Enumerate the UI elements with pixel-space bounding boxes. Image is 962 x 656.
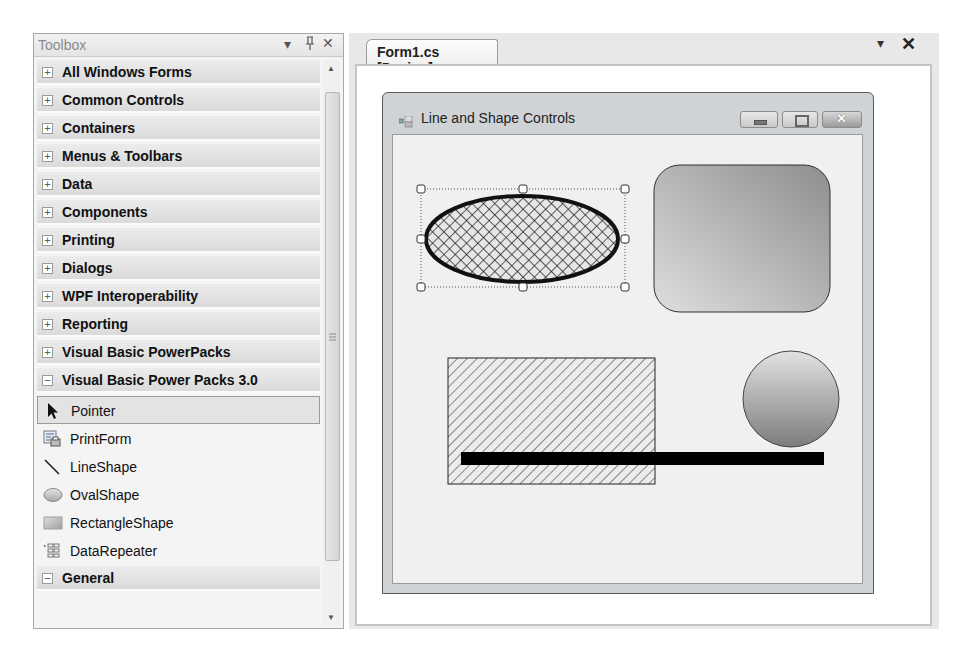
expand-icon[interactable]: + [42,207,53,218]
category-components[interactable]: +Components [37,200,320,225]
line-shape[interactable] [461,452,824,465]
oval-icon [43,486,61,504]
category-label: General [62,570,114,586]
expand-icon[interactable]: + [42,123,53,134]
category-data[interactable]: +Data [37,172,320,197]
category-menus-toolbars[interactable]: +Menus & Toolbars [37,144,320,169]
expand-icon[interactable]: + [42,347,53,358]
form-title: Line and Shape Controls [421,110,575,126]
expand-icon[interactable]: + [42,235,53,246]
form-maximize-button[interactable] [782,111,818,128]
document-close-icon[interactable]: ✕ [901,33,916,55]
rounded-rectangle-shape[interactable] [654,165,830,312]
scroll-down-icon[interactable]: ▼ [327,613,335,622]
expand-icon[interactable]: + [42,291,53,302]
toolbox-item-rectangleshape[interactable]: RectangleShape [37,509,320,537]
category-visual-basic-powerpacks[interactable]: +Visual Basic PowerPacks [37,340,320,365]
rectangle-shape-hatched[interactable] [448,358,655,484]
collapse-icon[interactable]: − [42,573,53,584]
category-label: Menus & Toolbars [62,148,182,164]
form-client-area[interactable] [392,134,863,584]
item-label: RectangleShape [70,515,174,531]
item-label: LineShape [70,459,137,475]
category-label: Components [62,204,148,220]
category-printing[interactable]: +Printing [37,228,320,253]
tab-form1-design[interactable]: Form1.cs [Design] [366,39,498,66]
category-dialogs[interactable]: +Dialogs [37,256,320,281]
category-label: Data [62,176,92,192]
item-label: DataRepeater [70,543,157,559]
toolbox-list: +All Windows Forms +Common Controls +Con… [37,60,320,626]
category-label: Reporting [62,316,128,332]
category-containers[interactable]: +Containers [37,116,320,141]
expand-icon[interactable]: + [42,263,53,274]
category-label: All Windows Forms [62,64,192,80]
toolbox-item-ovalshape[interactable]: OvalShape [37,481,320,509]
category-all-windows-forms[interactable]: +All Windows Forms [37,60,320,85]
form-minimize-button[interactable] [740,111,778,128]
close-icon: ✕ [836,111,847,126]
category-label: Visual Basic Power Packs 3.0 [62,372,258,388]
category-label: Containers [62,120,135,136]
toolbox-item-pointer[interactable]: Pointer [37,396,320,424]
item-label: PrintForm [70,431,131,447]
category-label: Common Controls [62,92,184,108]
expand-icon[interactable]: + [42,95,53,106]
toolbox-item-printform[interactable]: PrintForm [37,425,320,453]
form-close-button[interactable]: ✕ [822,111,862,128]
rectangle-icon [43,514,61,532]
category-wpf-interoperability[interactable]: +WPF Interoperability [37,284,320,309]
line-icon [43,458,61,476]
oval-shape-crosshatch[interactable] [426,196,618,282]
item-label: Pointer [71,403,115,419]
expand-icon[interactable]: + [42,319,53,330]
datarepeater-icon [43,542,61,560]
category-reporting[interactable]: +Reporting [37,312,320,337]
toolbox-title: Toolbox [38,37,86,53]
category-label: WPF Interoperability [62,288,198,304]
scroll-up-icon[interactable]: ▲ [327,64,335,73]
category-label: Printing [62,232,115,248]
toolbox-item-datarepeater[interactable]: DataRepeater [37,537,320,565]
toolbox-title-bar: Toolbox ▾ ✕ [34,34,343,57]
oval-shape-circle[interactable] [743,351,839,447]
document-dropdown-icon[interactable]: ▾ [877,35,884,51]
category-common-controls[interactable]: +Common Controls [37,88,320,113]
toolbox-item-lineshape[interactable]: LineShape [37,453,320,481]
category-general[interactable]: −General [37,566,320,591]
collapse-icon[interactable]: − [42,375,53,386]
toolbox-close-icon[interactable]: ✕ [322,35,334,51]
category-label: Dialogs [62,260,113,276]
expand-icon[interactable]: + [42,67,53,78]
category-visual-basic-power-packs-3[interactable]: −Visual Basic Power Packs 3.0 [37,368,320,393]
toolbox-panel: Toolbox ▾ ✕ +All Windows Forms +Common C… [33,33,344,629]
item-label: OvalShape [70,487,139,503]
toolbox-dropdown-icon[interactable]: ▾ [284,36,291,52]
form-icon [399,114,411,124]
category-label: Visual Basic PowerPacks [62,344,231,360]
toolbox-pin-icon[interactable] [304,35,316,54]
form-window[interactable]: Line and Shape Controls ✕ [382,92,874,594]
printform-icon [43,430,61,448]
pointer-icon [44,402,62,420]
toolbox-scrollbar-thumb[interactable] [325,92,340,561]
expand-icon[interactable]: + [42,179,53,190]
expand-icon[interactable]: + [42,151,53,162]
